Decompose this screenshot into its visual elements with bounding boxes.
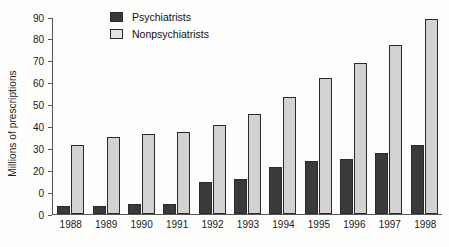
y-axis-tick-mark: [48, 193, 52, 194]
bar-group: [301, 18, 336, 214]
bar-group: [407, 18, 442, 214]
bar-psychiatrists: [128, 204, 141, 214]
bar-nonpsychiatrists: [248, 114, 261, 214]
y-axis-tick-label: 70: [33, 56, 48, 67]
bar-psychiatrists: [57, 206, 70, 214]
y-axis-tick: 0: [6, 187, 52, 199]
bar-group: [159, 18, 194, 214]
bar-nonpsychiatrists: [213, 125, 226, 214]
bar-psychiatrists: [163, 204, 176, 214]
x-axis-tick-label: 1991: [159, 219, 194, 230]
x-axis-tick-label: 1998: [408, 219, 443, 230]
x-axis-tick-label: 1994: [266, 219, 301, 230]
y-axis-tick-label: 90: [33, 13, 48, 24]
y-axis-tick-mark: [48, 127, 52, 128]
bar-group: [230, 18, 265, 214]
x-axis-tick-label: 1996: [337, 219, 372, 230]
bar-nonpsychiatrists: [354, 63, 367, 214]
x-axis-tick-label: 1992: [195, 219, 230, 230]
x-axis-tick-label: 1993: [230, 219, 265, 230]
y-axis-tick-label: 0: [38, 210, 48, 221]
y-axis-tick: 40: [6, 121, 52, 133]
bar-group: [124, 18, 159, 214]
bar-psychiatrists: [305, 161, 318, 214]
x-axis-tick-label: 1997: [372, 219, 407, 230]
bar-nonpsychiatrists: [177, 132, 190, 214]
bar-nonpsychiatrists: [71, 145, 84, 214]
y-axis-tick-label: 20: [33, 166, 48, 177]
bars-layer: [53, 18, 442, 214]
bar-group: [265, 18, 300, 214]
y-axis-tick-label: 40: [33, 122, 48, 133]
x-axis-labels: 1988198919901991199219931994199519961997…: [53, 219, 443, 230]
y-axis-tick-label: 30: [33, 144, 48, 155]
y-axis-tick: 50: [6, 100, 52, 112]
bar-group: [88, 18, 123, 214]
y-axis-tick-label: 0: [38, 188, 48, 199]
bar-nonpsychiatrists: [283, 97, 296, 214]
y-axis-tick-mark: [48, 171, 52, 172]
bar-psychiatrists: [340, 159, 353, 214]
plot-area: 908070605040302000: [52, 18, 442, 215]
y-axis-tick: 90: [6, 12, 52, 24]
bar-nonpsychiatrists: [319, 78, 332, 214]
x-axis-tick-label: 1990: [124, 219, 159, 230]
bar-nonpsychiatrists: [425, 19, 438, 214]
y-axis-tick-mark: [48, 61, 52, 62]
y-axis-tick-mark: [48, 18, 52, 19]
y-axis-tick-label: 60: [33, 78, 48, 89]
bar-nonpsychiatrists: [107, 137, 120, 214]
y-axis-tick: 30: [6, 143, 52, 155]
bar-psychiatrists: [93, 206, 106, 214]
bar-group: [371, 18, 406, 214]
bar-psychiatrists: [269, 167, 282, 214]
y-axis-tick: 80: [6, 34, 52, 46]
bar-group: [53, 18, 88, 214]
x-axis-tick-label: 1988: [53, 219, 88, 230]
x-axis-tick-label: 1995: [301, 219, 336, 230]
bar-psychiatrists: [199, 182, 212, 214]
y-axis-tick-mark: [48, 39, 52, 40]
y-axis-tick-label: 80: [33, 34, 48, 45]
bar-chart: Millions of prescriptions Psychiatrists …: [0, 0, 449, 247]
bar-psychiatrists: [411, 145, 424, 214]
y-axis-tick-mark: [48, 215, 52, 216]
x-axis-line: [52, 214, 442, 215]
y-axis-tick-mark: [48, 83, 52, 84]
y-axis-tick: 60: [6, 78, 52, 90]
bar-nonpsychiatrists: [389, 45, 402, 214]
bar-psychiatrists: [375, 153, 388, 214]
y-axis-tick-mark: [48, 149, 52, 150]
x-axis-tick-label: 1989: [88, 219, 123, 230]
bar-psychiatrists: [234, 179, 247, 214]
bar-group: [336, 18, 371, 214]
y-axis-tick-mark: [48, 105, 52, 106]
y-axis-tick-label: 50: [33, 100, 48, 111]
y-axis-tick: 20: [6, 165, 52, 177]
y-axis-tick: 0: [6, 209, 52, 221]
y-axis-tick: 70: [6, 56, 52, 68]
bar-nonpsychiatrists: [142, 134, 155, 214]
bar-group: [194, 18, 229, 214]
